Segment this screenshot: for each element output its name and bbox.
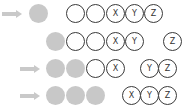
circle-z: Z [158,59,177,78]
filled-circle [46,32,65,51]
circle-y: Y [140,86,159,105]
empty-circle [66,4,85,23]
empty-circle [86,32,105,51]
filled-circle [66,59,85,78]
circle-x: X [106,4,125,23]
arrow-icon [20,92,40,100]
arrow-icon [20,65,40,73]
circle-y: Y [125,32,144,51]
filled-circle [29,4,48,23]
filled-circle [86,86,105,105]
filled-circle [46,86,65,105]
empty-circle [66,32,85,51]
empty-circle [86,4,105,23]
empty-circle [86,59,105,78]
circle-z: Z [163,32,182,51]
circle-x: X [106,59,125,78]
filled-circle [46,59,65,78]
circle-x: X [122,86,141,105]
row-3: X Y Z [0,57,191,81]
filled-circle [66,86,85,105]
row-1: X Y Z [0,2,191,26]
circle-z: Z [158,86,177,105]
circle-x: X [106,32,125,51]
arrow-icon [2,10,22,18]
row-4: X Y Z [0,84,191,108]
circle-z: Z [144,4,163,23]
row-2: X Y Z [0,30,191,54]
circle-y: Y [140,59,159,78]
circle-y: Y [125,4,144,23]
